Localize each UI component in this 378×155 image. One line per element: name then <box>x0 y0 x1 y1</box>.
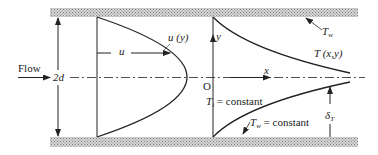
wall-temp-top-label: Tw <box>322 26 333 39</box>
x-axis-label: x <box>264 65 269 76</box>
bottom-wall <box>50 137 358 147</box>
velocity-label: u <box>119 46 125 57</box>
top-wall <box>50 8 358 17</box>
thermal-thickness-label: δT <box>325 110 334 123</box>
y-axis-label: y <box>216 31 221 42</box>
wall-temp-top-arrow <box>306 18 322 30</box>
velocity-profile-label: u (y) <box>168 32 188 43</box>
height-label: 2d <box>52 72 65 83</box>
flow-label: Flow <box>18 63 41 74</box>
inlet-temp-label: Ti = constant <box>206 96 262 109</box>
temperature-field-label: T (x,y) <box>314 48 343 59</box>
wall-temp-bottom-label: Tw = constant <box>250 117 309 130</box>
origin-label: O <box>203 81 211 92</box>
wall-temp-bottom-arrow <box>243 122 250 134</box>
